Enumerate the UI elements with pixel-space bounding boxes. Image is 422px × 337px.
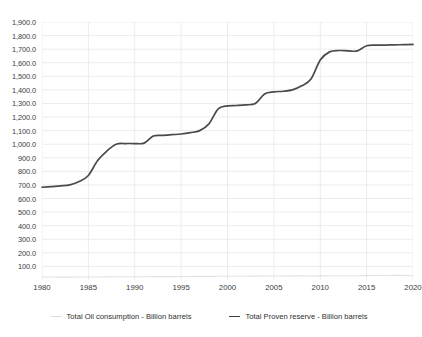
- y-axis-tick-label: 1,000.0: [12, 140, 36, 149]
- y-axis-tick-label: 300.0: [18, 235, 36, 244]
- y-axis-tick-label: 400.0: [18, 221, 36, 230]
- legend-line-swatch-icon: [51, 316, 62, 317]
- y-axis-tick-label: 800.0: [18, 167, 36, 176]
- y-axis-tick-label: 500.0: [18, 208, 36, 217]
- y-axis-tick-label: 100.0: [18, 262, 36, 271]
- y-axis-tick-label: 700.0: [18, 180, 36, 189]
- y-axis-tick-label: 1,700.0: [12, 45, 36, 54]
- x-axis-tick-label: 1985: [80, 283, 97, 292]
- x-axis-tick-label: 2010: [312, 283, 329, 292]
- x-axis-tick-label: 2000: [219, 283, 236, 292]
- y-axis-tick-label: 200.0: [18, 248, 36, 257]
- legend-label: Total Oil consumption - Billion barrels: [67, 312, 192, 321]
- y-axis-tick-label: 1,200.0: [12, 113, 36, 122]
- series-line: [42, 44, 413, 187]
- y-axis-tick-label: 1,500.0: [12, 72, 36, 81]
- x-axis-tick-label: 2015: [358, 283, 375, 292]
- x-axis-tick-label: 2020: [404, 283, 421, 292]
- plot-area: [42, 22, 413, 280]
- series-lines: [42, 22, 413, 280]
- chart-legend: Total Oil consumption - Billion barrelsT…: [0, 312, 418, 321]
- x-axis-tick-label: 1990: [126, 283, 143, 292]
- y-axis-tick-label: 1,100.0: [12, 126, 36, 135]
- legend-line-swatch-icon: [229, 316, 240, 317]
- y-axis: 100.0200.0300.0400.0500.0600.0700.0800.0…: [0, 22, 40, 280]
- y-axis-tick-label: 1,900.0: [12, 18, 36, 27]
- legend-item[interactable]: Total Oil consumption - Billion barrels: [51, 312, 192, 321]
- y-axis-tick-label: 900.0: [18, 153, 36, 162]
- x-axis: 198019851990199520002005201020152020: [42, 283, 413, 297]
- series-line: [42, 275, 413, 277]
- x-axis-tick-label: 1980: [33, 283, 50, 292]
- y-axis-tick-label: 1,800.0: [12, 31, 36, 40]
- legend-item[interactable]: Total Proven reserve - Billion barrels: [229, 312, 367, 321]
- x-axis-tick-label: 1995: [172, 283, 189, 292]
- legend-label: Total Proven reserve - Billion barrels: [245, 312, 367, 321]
- x-axis-tick-label: 2005: [265, 283, 282, 292]
- y-axis-tick-label: 1,400.0: [12, 85, 36, 94]
- y-axis-tick-label: 1,300.0: [12, 99, 36, 108]
- y-axis-tick-label: 600.0: [18, 194, 36, 203]
- y-axis-tick-label: 1,600.0: [12, 58, 36, 67]
